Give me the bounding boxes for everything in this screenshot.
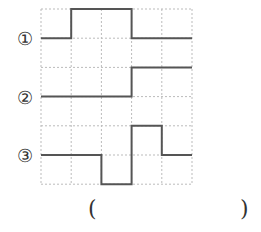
answer-close-paren[interactable]: )	[240, 198, 249, 220]
waveform-diagram	[0, 0, 261, 232]
answer-open-paren: (	[88, 198, 97, 220]
signal-label-1: ①	[17, 30, 33, 48]
signal-label-3: ③	[17, 147, 33, 165]
signal-label-2: ②	[17, 89, 33, 107]
